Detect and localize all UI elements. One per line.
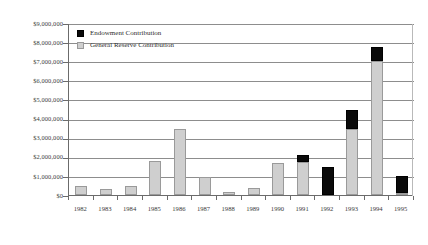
y-axis-tick-label: $5,000,000 (33, 97, 63, 103)
bar-segment-endowment (371, 47, 383, 61)
x-axis-tick-label: 1982 (68, 206, 93, 213)
gridline (69, 100, 414, 101)
legend-item: Endowment Contribution (77, 28, 227, 39)
y-axis-tick-label: $3,000,000 (33, 135, 63, 141)
bar-group (248, 188, 260, 195)
x-axis-tick (388, 196, 389, 200)
bar-group (75, 186, 87, 195)
x-axis-tick (216, 196, 217, 200)
bar-group (199, 177, 211, 195)
y-axis-tick-label: $4,000,000 (33, 116, 63, 122)
x-axis-tick-label: 1988 (216, 206, 241, 213)
x-axis-tick-label: 1983 (93, 206, 118, 213)
x-axis-tick (241, 196, 242, 200)
bar-segment-general-reserve (100, 189, 112, 195)
bar-chart: $0$1,000,000$2,000,000$3,000,000$4,000,0… (0, 0, 428, 245)
legend-swatch-endowment-icon (77, 30, 84, 37)
x-axis-tick-label: 1990 (265, 206, 290, 213)
y-axis-tick-label: $8,000,000 (33, 40, 63, 46)
gridline (69, 24, 414, 25)
x-axis-tick-label: 1989 (241, 206, 266, 213)
x-axis-tick-label: 1994 (364, 206, 389, 213)
bar-group (346, 110, 358, 195)
x-axis-tick (314, 196, 315, 200)
y-axis-tick-label: $6,000,000 (33, 78, 63, 84)
bar-segment-endowment (297, 155, 309, 162)
plot-right-border (412, 24, 413, 196)
x-axis-tick (117, 196, 118, 200)
x-axis-tick-label: 1987 (191, 206, 216, 213)
bar-segment-general-reserve (125, 186, 137, 195)
legend-label: General Reserve Contribution (90, 42, 174, 49)
x-axis-tick (191, 196, 192, 200)
x-axis-tick (339, 196, 340, 200)
x-axis-tick (364, 196, 365, 200)
y-axis: $0$1,000,000$2,000,000$3,000,000$4,000,0… (0, 0, 63, 245)
bar-segment-general-reserve (248, 188, 260, 195)
y-axis-tick-label: $0 (56, 193, 63, 199)
x-axis-tick (68, 196, 69, 200)
gridline (69, 158, 414, 159)
x-axis-tick (290, 196, 291, 200)
bar-segment-endowment (346, 110, 358, 129)
bar-group (371, 47, 383, 195)
y-axis-tick-label: $1,000,000 (33, 174, 63, 180)
bar-group (272, 163, 284, 195)
y-axis-tick-label: $2,000,000 (33, 154, 63, 160)
bar-group (125, 186, 137, 195)
x-axis: 1982198319841985198619871988198919901991… (68, 202, 413, 218)
y-axis-tick-label: $7,000,000 (33, 59, 63, 65)
bar-group (174, 129, 186, 195)
bar-segment-general-reserve (272, 163, 284, 195)
x-axis-tick-label: 1986 (167, 206, 192, 213)
gridline (69, 139, 414, 140)
bar-group (149, 161, 161, 195)
bar-segment-general-reserve (346, 129, 358, 195)
bar-group (223, 192, 235, 195)
gridline (69, 120, 414, 121)
x-axis-tick-label: 1984 (117, 206, 142, 213)
x-axis-tick-label: 1993 (339, 206, 364, 213)
bar-segment-general-reserve (174, 129, 186, 195)
x-axis-tick-label: 1991 (290, 206, 315, 213)
bar-group (297, 155, 309, 195)
x-axis-tick (413, 196, 414, 200)
gridline (69, 81, 414, 82)
x-axis-tick-label: 1995 (388, 206, 413, 213)
bar-segment-general-reserve (149, 161, 161, 195)
legend-label: Endowment Contribution (90, 30, 161, 37)
bar-segment-general-reserve (75, 186, 87, 195)
bar-segment-general-reserve (199, 177, 211, 195)
bar-segment-general-reserve (371, 61, 383, 195)
bar-group (322, 167, 334, 195)
bar-segment-endowment (396, 176, 408, 193)
x-axis-tick (93, 196, 94, 200)
bar-segment-general-reserve (396, 193, 408, 195)
gridline (69, 177, 414, 178)
bar-group (100, 189, 112, 195)
x-axis-tick (265, 196, 266, 200)
bar-segment-general-reserve (223, 192, 235, 195)
bar-segment-endowment (322, 167, 334, 195)
x-axis-tick-label: 1992 (314, 206, 339, 213)
chart-legend: Endowment ContributionGeneral Reserve Co… (77, 28, 227, 52)
x-axis-tick (167, 196, 168, 200)
bar-group (396, 176, 408, 195)
gridline (69, 62, 414, 63)
bar-segment-general-reserve (297, 162, 309, 195)
legend-swatch-reserve-icon (77, 42, 84, 49)
y-axis-tick-label: $9,000,000 (33, 21, 63, 27)
x-axis-tick (142, 196, 143, 200)
x-axis-tick-label: 1985 (142, 206, 167, 213)
legend-item: General Reserve Contribution (77, 40, 227, 51)
